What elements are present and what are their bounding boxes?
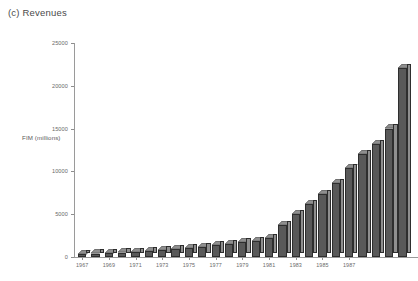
bar-front-face xyxy=(252,241,260,257)
bar-side-face xyxy=(193,244,197,253)
bar-front-face xyxy=(225,244,233,257)
bar-side-face xyxy=(206,243,210,253)
x-tick-mark xyxy=(269,258,270,260)
x-tick-mark xyxy=(322,258,323,260)
x-tick-label: 1967 xyxy=(70,262,94,268)
x-tick-mark xyxy=(82,258,83,260)
bar-front-face xyxy=(105,253,113,257)
bar-front-face xyxy=(131,252,139,257)
bar xyxy=(252,237,265,257)
bar-side-face xyxy=(300,210,304,253)
bar-side-face xyxy=(407,64,411,253)
bar-front-face xyxy=(158,250,166,257)
bar-front-face xyxy=(332,183,340,257)
bar-front-face xyxy=(345,168,353,257)
y-axis-line xyxy=(74,43,75,257)
bar xyxy=(238,238,251,257)
y-tick-mark xyxy=(71,86,74,87)
bar xyxy=(345,164,358,257)
bar xyxy=(265,234,278,257)
y-tick-label: 15000 xyxy=(34,126,68,132)
bar-side-face xyxy=(140,248,144,253)
bar-front-face xyxy=(78,254,86,257)
bar xyxy=(385,124,398,257)
x-tick-label: 1973 xyxy=(150,262,174,268)
bar-front-face xyxy=(185,248,193,257)
bar xyxy=(118,248,131,257)
bar xyxy=(185,244,198,257)
bar-side-face xyxy=(113,249,117,253)
x-tick-mark xyxy=(162,258,163,260)
bar xyxy=(305,200,318,257)
y-tick-label: 10000 xyxy=(34,168,68,174)
y-tick-mark xyxy=(71,171,74,172)
bar-side-face xyxy=(246,238,250,253)
bar-front-face xyxy=(212,245,220,257)
x-tick-label: 1987 xyxy=(337,262,361,268)
bar-side-face xyxy=(126,248,130,252)
bar-side-face xyxy=(367,150,371,253)
y-tick-label: 20000 xyxy=(34,83,68,89)
x-tick-mark xyxy=(189,258,190,260)
bar-front-face xyxy=(292,214,300,257)
bar-front-face xyxy=(118,253,126,257)
x-tick-label: 1971 xyxy=(124,262,148,268)
bar-side-face xyxy=(260,237,264,253)
bar-front-face xyxy=(398,68,406,257)
bar xyxy=(225,240,238,257)
bar xyxy=(91,249,104,257)
x-tick-mark xyxy=(296,258,297,260)
x-axis-line xyxy=(74,257,418,258)
bar-side-face xyxy=(233,240,237,253)
bar-front-face xyxy=(145,251,153,257)
bar xyxy=(198,243,211,257)
bar-front-face xyxy=(385,129,393,257)
y-tick-label: 5000 xyxy=(34,211,68,217)
bar xyxy=(158,246,171,257)
bar-side-face xyxy=(166,246,170,253)
bar xyxy=(372,140,385,257)
bar-side-face xyxy=(86,250,90,253)
x-tick-label: 1977 xyxy=(204,262,228,268)
bar-side-face xyxy=(180,245,184,253)
bar-front-face xyxy=(358,154,366,257)
bar xyxy=(318,190,331,257)
bar-side-face xyxy=(393,124,397,252)
bar xyxy=(145,247,158,257)
bar-side-face xyxy=(353,164,357,253)
bar-front-face xyxy=(238,242,246,257)
bar-side-face xyxy=(287,221,291,253)
bar-front-face xyxy=(305,204,313,257)
bar-side-face xyxy=(340,179,344,253)
bar xyxy=(358,150,371,257)
x-tick-label: 1975 xyxy=(177,262,201,268)
x-tick-label: 1979 xyxy=(230,262,254,268)
bar xyxy=(292,210,305,257)
x-tick-label: 1981 xyxy=(257,262,281,268)
x-tick-label: 1969 xyxy=(97,262,121,268)
bar xyxy=(398,64,411,257)
y-axis-title: FIM (millions) xyxy=(22,134,61,141)
x-tick-mark xyxy=(242,258,243,260)
bar xyxy=(212,241,225,257)
bar xyxy=(131,248,144,257)
y-tick-mark xyxy=(71,129,74,130)
y-tick-mark xyxy=(71,214,74,215)
bar xyxy=(171,245,184,257)
y-tick-mark xyxy=(71,257,74,258)
bar-front-face xyxy=(372,144,380,257)
x-tick-mark xyxy=(109,258,110,260)
bar-side-face xyxy=(153,247,157,253)
bar xyxy=(78,250,91,257)
y-tick-label: 25000 xyxy=(34,40,68,46)
bar xyxy=(332,179,345,257)
bar-front-face xyxy=(318,194,326,256)
bar-side-face xyxy=(273,234,277,253)
x-tick-mark xyxy=(349,258,350,260)
y-tick-label: 0 xyxy=(34,254,68,260)
bar-side-face xyxy=(380,140,384,253)
x-tick-label: 1983 xyxy=(284,262,308,268)
bar-front-face xyxy=(265,238,273,257)
